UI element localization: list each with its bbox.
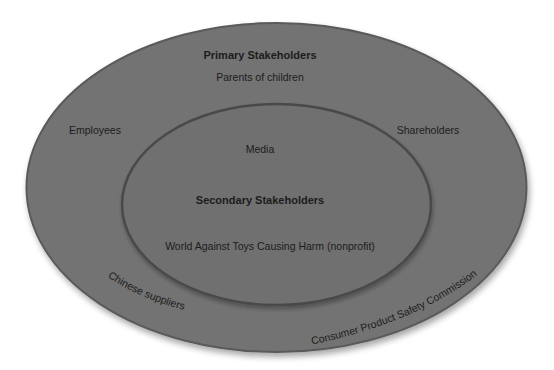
stakeholder-media: Media: [246, 143, 275, 155]
stakeholder-parents: Parents of children: [216, 71, 304, 83]
primary-stakeholders-title: Primary Stakeholders: [203, 49, 316, 61]
secondary-stakeholders-title: Secondary Stakeholders: [196, 194, 324, 206]
stakeholder-watch-nonprofit: World Against Toys Causing Harm (nonprof…: [165, 240, 375, 252]
stakeholder-employees: Employees: [69, 124, 121, 136]
stakeholder-diagram: Primary Stakeholders Parents of children…: [0, 0, 554, 370]
stakeholder-shareholders: Shareholders: [397, 124, 459, 136]
